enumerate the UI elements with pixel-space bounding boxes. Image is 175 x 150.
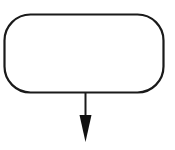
arrowhead-down-icon — [80, 115, 92, 142]
terminator-node[interactable] — [5, 15, 164, 93]
flowchart-canvas — [0, 0, 175, 150]
